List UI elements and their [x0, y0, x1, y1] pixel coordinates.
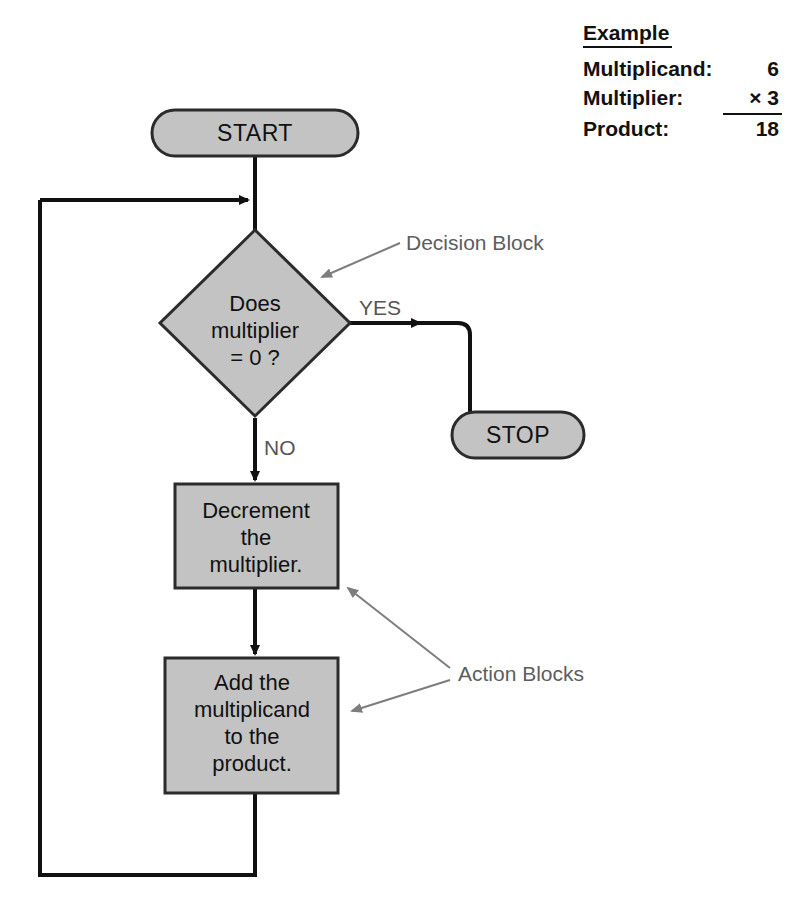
- action2-line-1: Add the: [214, 670, 290, 695]
- decision-line-3: = 0 ?: [230, 345, 280, 370]
- annotation-action-blocks: Action Blocks: [348, 588, 584, 711]
- action2-line-4: product.: [212, 751, 292, 776]
- example-row-2-label: Product:: [583, 117, 669, 140]
- start-label: START: [217, 120, 293, 146]
- edge-label-yes: YES: [359, 296, 401, 319]
- action-blocks-leader-line-lower: [352, 680, 450, 711]
- decision-line-1: Does: [229, 291, 280, 316]
- example-row-0-label: Multiplicand:: [583, 57, 713, 80]
- edge-label-no: NO: [264, 436, 296, 459]
- action1-line-1: Decrement: [202, 498, 310, 523]
- node-action-add[interactable]: Add the multiplicand to the product.: [165, 658, 338, 793]
- action2-line-2: multiplicand: [194, 697, 310, 722]
- node-decision[interactable]: Does multiplier = 0 ?: [160, 230, 350, 416]
- action-blocks-leader-line-upper: [348, 588, 450, 668]
- example-row-2-value: 18: [756, 117, 780, 140]
- decision-line-2: multiplier: [211, 318, 299, 343]
- annotation-decision-block: Decision Block: [322, 231, 544, 277]
- flowchart-svg: START Does multiplier = 0 ? STOP Decreme…: [0, 0, 804, 901]
- example-panel: Example Multiplicand: 6 Multiplier: × 3 …: [583, 21, 782, 140]
- example-row-0-value: 6: [767, 57, 779, 80]
- example-row-1-label: Multiplier:: [583, 86, 683, 109]
- example-row-1-value: × 3: [749, 86, 779, 109]
- action1-line-3: multiplier.: [210, 552, 303, 577]
- action1-line-2: the: [241, 525, 272, 550]
- node-stop[interactable]: STOP: [452, 412, 584, 458]
- example-heading: Example: [583, 21, 669, 44]
- stop-label: STOP: [486, 422, 550, 448]
- node-action-decrement[interactable]: Decrement the multiplier.: [175, 484, 338, 588]
- action2-line-3: to the: [224, 724, 279, 749]
- decision-block-leader-line: [322, 243, 400, 277]
- edge-yes-to-stop: [420, 323, 470, 412]
- decision-block-label: Decision Block: [406, 231, 544, 254]
- node-start[interactable]: START: [152, 110, 358, 156]
- flowchart-canvas: START Does multiplier = 0 ? STOP Decreme…: [0, 0, 804, 901]
- action-blocks-label: Action Blocks: [458, 662, 584, 685]
